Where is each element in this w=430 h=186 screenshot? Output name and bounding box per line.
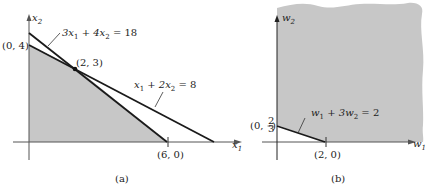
feasible-region-b: [277, 3, 423, 142]
point-label-2-0: (2, 0): [314, 149, 341, 160]
point-label-2-3: (2, 3): [76, 57, 103, 68]
point-label-6-0: (6, 0): [157, 149, 184, 160]
lp-figure: x2 x1 3x1 + 4x2 = 18 x1 + 2x2 = 8 (0, 4)…: [0, 0, 430, 186]
point-label-close-paren: ): [272, 120, 276, 131]
leader-x1-2x2: [155, 92, 163, 107]
label-x1-2x2-8: x1 + 2x2 = 8: [134, 79, 196, 93]
caption-a: (a): [115, 173, 129, 184]
point-label-0-2-3: (0,: [250, 120, 263, 131]
caption-b: (b): [331, 173, 345, 184]
panel-a: x2 x1 3x1 + 4x2 = 18 x1 + 2x2 = 8 (0, 4)…: [2, 12, 242, 184]
w1-axis-label: w1: [413, 138, 426, 152]
x2-axis-label: x2: [32, 12, 43, 26]
label-3x1-4x2-18: 3x1 + 4x2 = 18: [62, 27, 137, 41]
x1-axis-label: x1: [232, 139, 242, 153]
x2-axis-arrow-icon: [27, 14, 32, 21]
leader-3x1-4x2: [48, 33, 60, 46]
point-label-0-4: (0, 4): [2, 40, 29, 51]
panel-b: w2 w1 w1 + 3w2 = 2 (0, 2 3 ) (2, 0) (b): [250, 3, 426, 184]
